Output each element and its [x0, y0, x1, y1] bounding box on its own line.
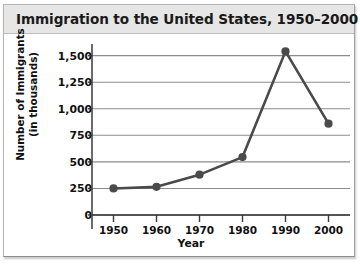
data-line	[114, 51, 329, 188]
x-axis-title: Year	[4, 237, 354, 250]
data-point-marker	[238, 153, 246, 161]
data-point-marker	[281, 47, 289, 55]
plot-area: Number of Immigrants (in thousands) 0250…	[4, 34, 354, 256]
data-point-marker	[324, 120, 332, 128]
line-chart-svg	[4, 34, 356, 258]
chart-title-bar: Immigration to the United States, 1950–2…	[4, 5, 354, 34]
data-point-marker	[152, 183, 160, 191]
data-point-marker	[109, 184, 117, 192]
data-point-marker	[195, 171, 203, 179]
chart-figure: Immigration to the United States, 1950–2…	[3, 4, 355, 257]
page-title: Immigration to the United States, 1950–2…	[16, 11, 358, 27]
